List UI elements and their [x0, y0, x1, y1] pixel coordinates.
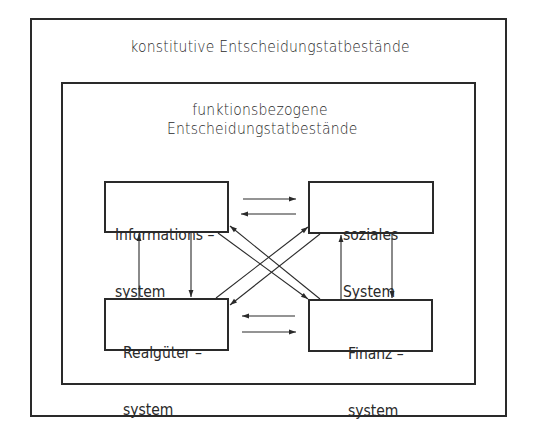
arrow-realgoods-to-social [216, 227, 308, 298]
connection-arrows [0, 0, 534, 435]
arrow-social-to-realgoods [230, 234, 320, 305]
arrow-info-to-finance [218, 233, 308, 299]
arrow-finance-to-info [230, 226, 320, 299]
